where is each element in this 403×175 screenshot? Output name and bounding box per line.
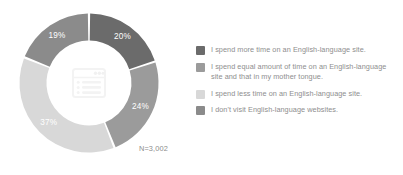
legend-item-label: I spend more time on an English-language… [211,45,366,55]
legend-swatch [196,90,205,99]
sample-size-annotation: N=3,002 [139,144,168,153]
legend-item-label: I spend less time on an English-language… [211,89,362,99]
legend-item[interactable]: I spend less time on an English-language… [196,89,396,99]
donut-slice[interactable] [90,14,155,70]
donut-slice-label: 20% [114,32,131,41]
legend: I spend more time on an English-language… [196,45,396,122]
donut-slice-label: 37% [40,118,57,127]
donut-slice[interactable] [25,14,88,67]
donut-slice-label: 19% [48,31,65,40]
legend-item[interactable]: I spend more time on an English-language… [196,45,396,55]
donut-slice-label: 24% [132,102,149,111]
legend-swatch [196,46,205,55]
legend-item[interactable]: I spend equal amount of time on an Engli… [196,62,396,82]
legend-swatch [196,63,205,72]
legend-swatch [196,106,205,115]
donut-chart: 20%24%37%19% [16,10,162,156]
browser-window-icon [72,68,106,98]
legend-item[interactable]: I don't visit English-language websites. [196,105,396,115]
donut-chart-figure: 20%24%37%19% N=3,002 I spend more time o… [0,0,403,175]
legend-item-label: I spend equal amount of time on an Engli… [211,62,396,82]
legend-item-label: I don't visit English-language websites. [211,105,338,115]
